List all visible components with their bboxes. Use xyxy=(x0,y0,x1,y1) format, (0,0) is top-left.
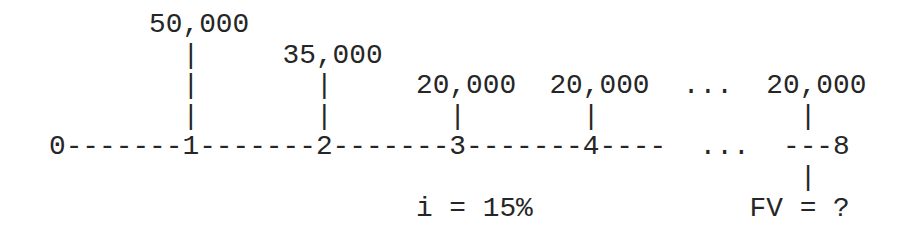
amount-row-third: | | 20,000 20,000 ... 20,000 xyxy=(49,71,866,102)
cash-flow-diagram: 50,000 | 35,000 | | 20,000 20,000 ... 20… xyxy=(49,10,866,224)
timeline-axis: 0-------1-------2-------3-------4---- ..… xyxy=(49,132,866,163)
labels-row: i = 15% FV = ? xyxy=(49,194,866,225)
future-value-stem-row: | xyxy=(49,163,866,194)
amount-row-second: | 35,000 xyxy=(49,41,866,72)
amount-row-top: 50,000 xyxy=(49,10,866,41)
arrow-stem-row: | | | | | xyxy=(49,102,866,133)
